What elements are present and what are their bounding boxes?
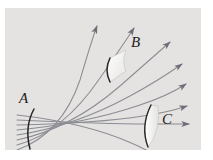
field-line-bundle [17, 26, 189, 150]
label-c: C [162, 112, 172, 127]
diagram-canvas [5, 8, 201, 150]
surface-c [145, 105, 159, 147]
label-b: B [131, 35, 140, 50]
diagram-panel [5, 8, 201, 150]
label-a: A [19, 91, 28, 106]
field-line-2 [17, 28, 134, 145]
field-line-1 [17, 26, 97, 150]
surface-b [107, 50, 126, 82]
flux-diagram-figure: A B C [0, 0, 213, 160]
surface-b-patch [107, 50, 126, 82]
field-line-8 [17, 115, 158, 150]
surface-c-lens [145, 105, 159, 147]
